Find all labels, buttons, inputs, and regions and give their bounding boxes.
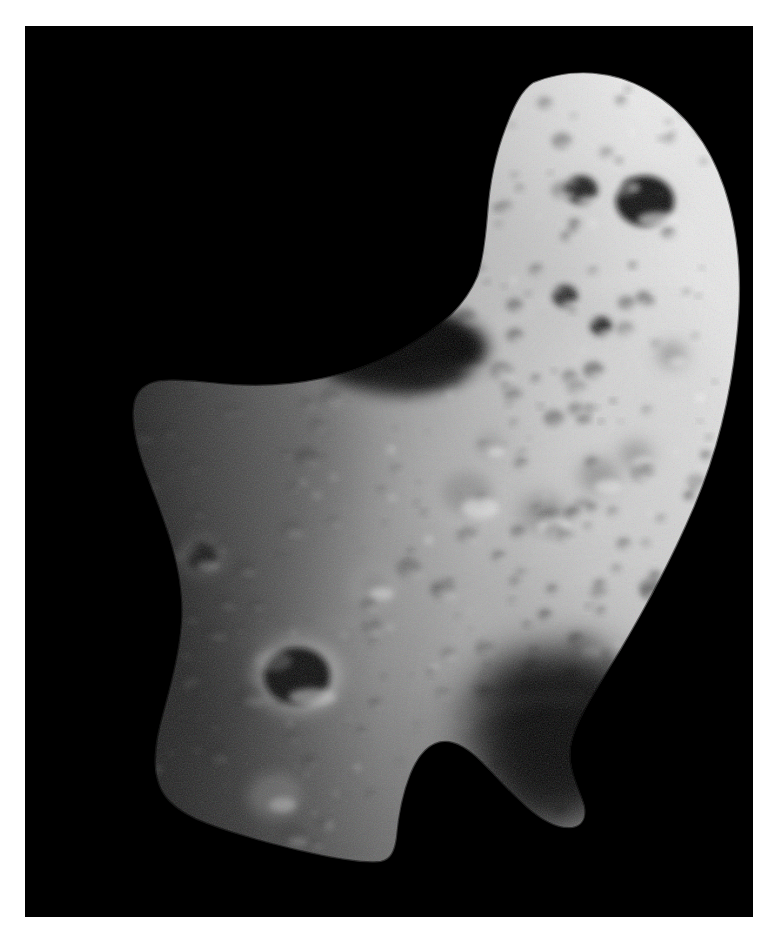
asteroid-photograph	[25, 26, 753, 917]
asteroid-image-canvas	[25, 26, 753, 917]
photo-page: asteroid-433-eros	[0, 0, 775, 941]
